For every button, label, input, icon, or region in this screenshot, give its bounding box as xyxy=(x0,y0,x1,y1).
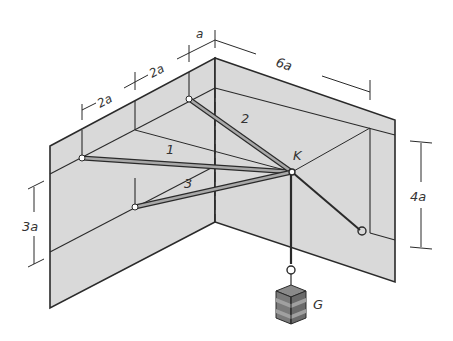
pin-rod-1 xyxy=(79,155,85,161)
rod-label-1: 1 xyxy=(166,142,174,157)
rod-label-2: 2 xyxy=(241,111,249,126)
hook-ring xyxy=(287,266,295,274)
dim-label-2a-mid: 2a xyxy=(147,61,167,80)
dim-label-2a-left: 2a xyxy=(95,91,115,110)
pin-rod-2 xyxy=(186,96,192,102)
statics-diagram: 2a 2a a 6a 3a 4a 1 2 3 K G xyxy=(0,0,453,341)
dim-label-3a: 3a xyxy=(22,219,38,234)
dim-label-6a: 6a xyxy=(274,55,294,74)
node-label-k: K xyxy=(293,148,303,163)
weight-block xyxy=(276,285,306,324)
dim-label-4a: 4a xyxy=(410,189,426,204)
dim-label-a: a xyxy=(196,27,203,41)
pin-rod-3 xyxy=(132,204,138,210)
rod-label-3: 3 xyxy=(184,176,192,191)
weight-label-g: G xyxy=(313,297,323,312)
node-k-pin xyxy=(289,169,295,175)
